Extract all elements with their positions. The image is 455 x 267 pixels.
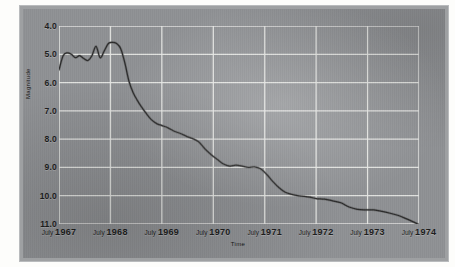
x-tick-year: 1972 [312,227,333,237]
x-axis-tick-label: July 1970 [196,227,231,237]
x-tick-year: 1971 [261,227,282,237]
data-line-halo [59,42,419,224]
x-axis-tick-label: July 1969 [145,227,180,237]
x-tick-month: July [42,229,55,236]
data-series-group [59,42,419,224]
x-axis-tick-label: July 1968 [93,227,128,237]
y-axis-tick-label: 4.0 [45,21,57,31]
x-tick-month: July [299,229,312,236]
y-axis-tick-label: 7.0 [45,106,57,116]
x-tick-month: July [196,229,209,236]
x-axis-title: Time [23,241,453,247]
x-axis-tick-label: July 1974 [402,227,437,237]
plot-svg [59,26,419,224]
x-tick-year: 1969 [158,227,179,237]
data-line [59,42,419,224]
y-axis-tick-labels: 4.05.06.07.08.09.010.011.0 [23,26,57,224]
x-tick-month: July [93,229,106,236]
y-axis-title: Magnitude [25,68,31,99]
plot-area [59,26,419,224]
y-axis-tick-label: 9.0 [45,162,57,172]
x-tick-year: 1970 [209,227,230,237]
gridlines [59,26,419,224]
x-tick-month: July [402,229,415,236]
x-tick-year: 1974 [415,227,436,237]
x-tick-month: July [247,229,260,236]
x-axis-tick-label: July 1973 [350,227,385,237]
x-axis-tick-label: July 1972 [299,227,334,237]
x-tick-year: 1973 [364,227,385,237]
x-axis-tick-label: July 1967 [42,227,77,237]
y-axis-tick-label: 6.0 [45,78,57,88]
chart-figure: 4.05.06.07.08.09.010.011.0 Magnitude Jul… [0,0,455,267]
chart-bezel: 4.05.06.07.08.09.010.011.0 Magnitude Jul… [23,9,445,258]
y-axis-tick-label: 5.0 [45,49,57,59]
x-tick-year: 1968 [106,227,127,237]
x-tick-month: July [350,229,363,236]
y-axis-tick-label: 10.0 [40,191,57,201]
y-axis-tick-label: 8.0 [45,134,57,144]
x-tick-month: July [145,229,158,236]
x-tick-year: 1967 [55,227,76,237]
photo-frame: 4.05.06.07.08.09.010.011.0 Magnitude Jul… [19,5,449,262]
x-axis-tick-label: July 1971 [247,227,282,237]
